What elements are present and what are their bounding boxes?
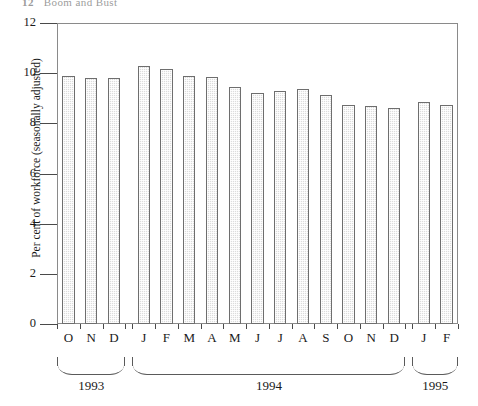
month-label: F — [443, 331, 450, 344]
year-brace — [412, 357, 458, 366]
month-label: M — [229, 331, 241, 344]
bar — [85, 78, 97, 324]
y-axis-tick: 10 — [40, 73, 57, 74]
year-label: 1994 — [256, 379, 282, 392]
month-label: N — [367, 331, 376, 344]
month-label: O — [64, 331, 73, 344]
x-axis-tick — [132, 324, 133, 329]
month-label: A — [298, 331, 307, 344]
year-brace — [57, 357, 125, 366]
y-axis-tick: 2 — [40, 274, 57, 275]
x-axis-tick — [246, 324, 247, 329]
x-axis-tick — [125, 324, 126, 329]
x-axis-tick — [201, 324, 202, 329]
y-axis-tick: 12 — [40, 23, 57, 24]
bar — [320, 95, 332, 325]
bar — [183, 76, 195, 324]
x-axis-tick — [57, 324, 58, 329]
x-axis-tick — [223, 324, 224, 329]
month-label: M — [183, 331, 195, 344]
y-axis-tick: 6 — [40, 174, 57, 175]
month-label: F — [163, 331, 170, 344]
y-axis-tick-label: 4 — [30, 217, 36, 230]
x-axis-tick — [155, 324, 156, 329]
x-axis-tick — [269, 324, 270, 329]
bar — [160, 69, 172, 324]
x-axis-tick — [383, 324, 384, 329]
x-axis-tick — [337, 324, 338, 329]
y-axis-tick-label: 0 — [30, 317, 36, 330]
y-axis-tick: 4 — [40, 224, 57, 225]
bar — [251, 93, 263, 324]
bar — [365, 106, 377, 324]
month-label: J — [141, 331, 146, 344]
month-label: J — [421, 331, 426, 344]
bar — [229, 87, 241, 324]
x-axis-tick — [458, 324, 459, 329]
x-axis-year-groups: 199319941995 — [57, 357, 458, 397]
x-axis-tick — [103, 324, 104, 329]
month-label: J — [255, 331, 260, 344]
y-axis-tick-label: 8 — [30, 116, 36, 129]
y-axis-tick-label: 12 — [24, 16, 37, 29]
bar — [138, 66, 150, 324]
month-label: N — [86, 331, 95, 344]
bar — [62, 76, 74, 324]
y-axis-tick: 8 — [40, 123, 57, 124]
unemployment-bar-chart: Per cent of workforce (seasonally adjust… — [0, 0, 478, 406]
bar — [108, 78, 120, 324]
y-axis-tick: 0 — [40, 324, 57, 325]
y-axis-tick-label: 10 — [24, 66, 37, 79]
bar — [418, 102, 430, 324]
bar — [274, 91, 286, 324]
bar — [388, 108, 400, 324]
x-axis-tick — [292, 324, 293, 329]
x-axis-tick — [435, 324, 436, 329]
bar — [297, 89, 309, 324]
month-label: O — [344, 331, 353, 344]
x-axis-tick — [178, 324, 179, 329]
year-label: 1995 — [422, 379, 448, 392]
y-axis-tick-label: 2 — [30, 267, 36, 280]
y-axis-tick-label: 6 — [30, 167, 36, 180]
x-axis-tick — [80, 324, 81, 329]
x-axis-tick — [412, 324, 413, 329]
bar — [206, 77, 218, 324]
x-axis-tick — [360, 324, 361, 329]
year-label: 1993 — [78, 379, 104, 392]
year-brace — [132, 357, 405, 366]
x-axis-tick — [314, 324, 315, 329]
month-label: D — [109, 331, 118, 344]
bar-series — [57, 23, 458, 324]
month-label: S — [322, 331, 329, 344]
month-label: A — [207, 331, 216, 344]
x-axis-month-labels: ONDJFMAMJJASONDJF — [57, 331, 458, 351]
bar — [342, 105, 354, 324]
month-label: D — [389, 331, 398, 344]
x-axis-tick — [405, 324, 406, 329]
bar — [440, 105, 452, 324]
month-label: J — [278, 331, 283, 344]
